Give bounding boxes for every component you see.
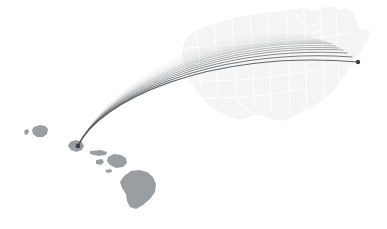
destination-marker-east-coast <box>356 60 360 64</box>
flight-route-map-figure: Great-circle flight routes from Honolulu… <box>0 0 387 229</box>
origin-marker-honolulu <box>76 144 81 149</box>
map-canvas <box>0 0 387 229</box>
